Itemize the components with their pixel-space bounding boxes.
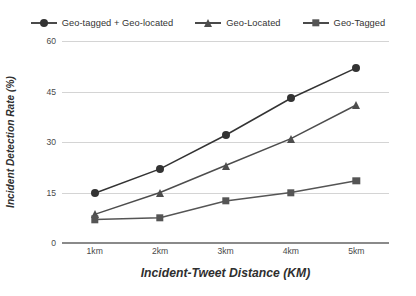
x-tick-label: 1km [87, 246, 103, 256]
data-point-triangle [222, 162, 230, 170]
data-point-circle [91, 189, 99, 197]
x-axis-title: Incident-Tweet Distance (KM) [62, 266, 389, 280]
series-lines [62, 41, 389, 243]
data-point-square [156, 214, 163, 221]
data-point-circle [287, 94, 295, 102]
x-tick-label: 2km [152, 246, 168, 256]
data-point-triangle [352, 101, 360, 109]
data-point-circle [156, 165, 164, 173]
data-point-square [287, 189, 294, 196]
x-axis-tick-labels: 1km2km3km4km5km [62, 246, 389, 260]
data-point-square [222, 197, 229, 204]
data-point-triangle [156, 189, 164, 197]
x-tick-label: 3km [217, 246, 233, 256]
chart-container: Geo-tagged + Geo-locatedGeo-LocatedGeo-T… [0, 0, 416, 296]
x-tick-label: 5km [348, 246, 364, 256]
plot-area [62, 41, 389, 243]
data-point-circle [352, 64, 360, 72]
data-point-triangle [287, 135, 295, 143]
data-point-circle [222, 131, 230, 139]
x-tick-label: 4km [283, 246, 299, 256]
data-point-square [91, 216, 98, 223]
data-point-square [353, 177, 360, 184]
